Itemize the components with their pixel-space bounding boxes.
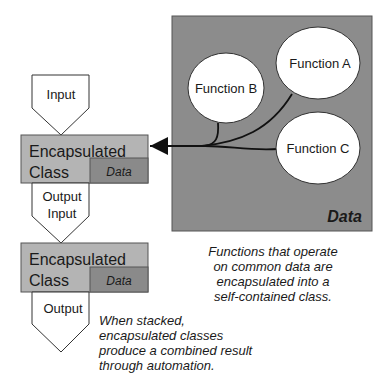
input-label-2: Input (48, 206, 77, 221)
caption-line: produce a combined result (99, 343, 269, 358)
function-a: Function A (276, 27, 360, 99)
function-c: Function C (276, 112, 360, 184)
caption-line: encapsulated into a (198, 274, 348, 289)
output-input-shape: Output Input (32, 183, 89, 243)
caption-line: Functions that operate (198, 244, 348, 259)
caption-line: through automation. (99, 358, 269, 373)
caption-line: encapsulated classes (99, 328, 269, 343)
caption-functions: Functions that operate on common data ar… (198, 244, 348, 304)
arrow-head-icon (150, 137, 168, 155)
caption-stacked: When stacked, encapsulated classes produ… (99, 313, 269, 373)
class-1-label-line1: Encapsulated (29, 143, 126, 160)
function-b-label: Function B (195, 81, 257, 96)
caption-line: on common data are (198, 259, 348, 274)
function-c-label: Function C (287, 141, 350, 156)
function-a-label: Function A (289, 56, 351, 71)
output-shape: Output (32, 292, 89, 352)
input-shape: Input (32, 75, 89, 135)
class-2-label-line2: Class (29, 272, 69, 289)
encapsulated-class-1: Encapsulated Class Data (21, 135, 148, 183)
input-label: Input (47, 87, 76, 102)
encapsulated-class-2: Encapsulated Class Data (21, 243, 148, 292)
class-2-data-label: Data (106, 274, 132, 288)
output-label-final: Output (43, 301, 82, 316)
caption-line: self-contained class. (198, 289, 348, 304)
class-2-label-line1: Encapsulated (29, 251, 126, 268)
class-1-data-label: Data (106, 165, 132, 179)
data-panel-label: Data (327, 208, 362, 225)
function-b: Function B (188, 53, 264, 123)
class-1-label-line2: Class (29, 164, 69, 181)
output-label-1: Output (42, 189, 81, 204)
caption-line: When stacked, (99, 313, 269, 328)
